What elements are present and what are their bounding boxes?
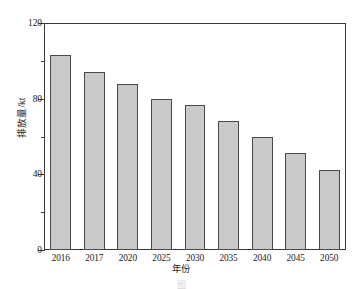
y-minor-tick-100	[41, 61, 45, 62]
y-minor-tick-60	[41, 137, 45, 138]
y-tick-label-40: 40	[8, 169, 42, 179]
y-tick-label-120: 120	[8, 18, 42, 28]
y-axis-title: 排放量/kt	[17, 80, 28, 156]
x-axis-title: 年份	[0, 264, 362, 275]
figure-bar-chart-emissions: 04080120 排放量/kt 201620172020202520302035…	[0, 0, 362, 289]
y-minor-tick-20	[41, 212, 45, 213]
plot-area-frame	[44, 23, 346, 250]
figure-caption: 图	[0, 280, 362, 289]
y-tick-label-0: 0	[8, 245, 42, 255]
x-tick-label-2050: 2050	[309, 253, 349, 264]
